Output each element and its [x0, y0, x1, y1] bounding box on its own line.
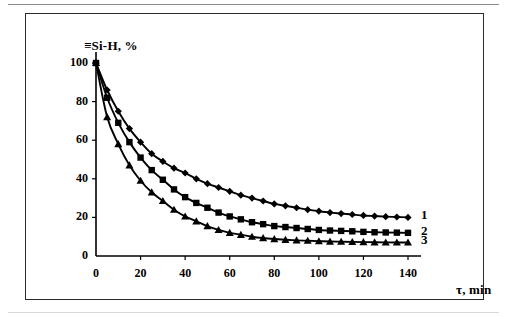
- series-line-2: [96, 63, 408, 233]
- x-axis-tick-label: 140: [391, 266, 425, 281]
- series-line-1: [96, 63, 408, 217]
- series-end-label-1: 1: [421, 207, 428, 223]
- series-end-label-3: 3: [421, 232, 428, 248]
- x-axis-tick-label: 0: [79, 266, 113, 281]
- data-point-marker-square: [371, 229, 377, 235]
- data-point-marker-square: [405, 230, 411, 236]
- data-point-marker-square: [293, 225, 299, 231]
- chart-frame: ≡Si-H, % τ, min 020406080100020406080100…: [25, 13, 484, 300]
- x-axis-tick-label: 20: [124, 266, 158, 281]
- data-point-marker-square: [149, 167, 155, 173]
- data-point-marker-diamond: [215, 184, 222, 191]
- data-point-marker-square: [160, 177, 166, 183]
- data-point-marker-square: [360, 229, 366, 235]
- data-point-marker-diamond: [260, 197, 267, 204]
- data-point-marker-diamond: [349, 211, 356, 218]
- data-point-marker-square: [126, 139, 132, 145]
- data-point-marker-diamond: [393, 213, 400, 220]
- data-point-marker-square: [249, 219, 255, 225]
- data-point-marker-square: [383, 229, 389, 235]
- data-point-marker-square: [338, 228, 344, 234]
- data-point-marker-diamond: [237, 192, 244, 199]
- data-point-marker-square: [260, 221, 266, 227]
- data-point-marker-square: [271, 223, 277, 229]
- y-axis-tick-label: 100: [58, 55, 88, 70]
- data-point-marker-square: [204, 205, 210, 211]
- data-point-marker-diamond: [315, 208, 322, 215]
- data-point-marker-square: [171, 186, 177, 192]
- data-point-marker-diamond: [382, 213, 389, 220]
- data-point-marker-square: [394, 229, 400, 235]
- data-point-marker-square: [182, 194, 188, 200]
- data-point-marker-diamond: [170, 165, 177, 172]
- top-divider-rule: [8, 4, 499, 5]
- y-axis-tick-label: 0: [58, 248, 88, 263]
- data-point-marker-diamond: [338, 210, 345, 217]
- x-axis-tick-label: 40: [168, 266, 202, 281]
- data-point-marker-square: [137, 154, 143, 160]
- data-point-marker-diamond: [360, 212, 367, 219]
- data-point-marker-square: [316, 227, 322, 233]
- x-axis-tick-label: 100: [302, 266, 336, 281]
- data-point-marker-triangle: [103, 113, 111, 120]
- data-point-marker-triangle: [114, 140, 122, 147]
- data-point-marker-diamond: [182, 169, 189, 176]
- data-point-marker-square: [238, 216, 244, 222]
- data-point-marker-square: [115, 120, 121, 126]
- series-group: [92, 59, 412, 246]
- data-point-marker-diamond: [371, 212, 378, 219]
- x-axis-tick-label: 120: [346, 266, 380, 281]
- data-point-marker-diamond: [226, 188, 233, 195]
- x-axis-tick-label: 60: [213, 266, 247, 281]
- data-point-marker-diamond: [282, 202, 289, 209]
- data-series-2: [93, 60, 411, 236]
- data-point-marker-diamond: [204, 180, 211, 187]
- y-axis-tick-label: 60: [58, 132, 88, 147]
- figure-root: ≡Si-H, % τ, min 020406080100020406080100…: [0, 0, 507, 317]
- y-axis-tick-label: 80: [58, 94, 88, 109]
- bottom-divider-rule: [8, 312, 499, 313]
- data-point-marker-square: [282, 224, 288, 230]
- data-point-marker-diamond: [248, 195, 255, 202]
- y-axis-tick-label: 40: [58, 171, 88, 186]
- data-point-marker-diamond: [293, 204, 300, 211]
- data-point-marker-diamond: [193, 175, 200, 182]
- y-axis-tick-label: 20: [58, 209, 88, 224]
- data-point-marker-square: [215, 209, 221, 215]
- data-point-marker-square: [193, 200, 199, 206]
- data-series-1: [92, 59, 411, 221]
- data-point-marker-diamond: [404, 214, 411, 221]
- data-point-marker-square: [349, 228, 355, 234]
- data-point-marker-diamond: [304, 206, 311, 213]
- x-axis-tick-label: 80: [257, 266, 291, 281]
- plot-area: [26, 14, 485, 301]
- data-point-marker-square: [104, 95, 110, 101]
- data-point-marker-square: [327, 227, 333, 233]
- data-point-marker-diamond: [326, 209, 333, 216]
- data-point-marker-square: [305, 226, 311, 232]
- data-point-marker-diamond: [271, 200, 278, 207]
- data-point-marker-square: [227, 213, 233, 219]
